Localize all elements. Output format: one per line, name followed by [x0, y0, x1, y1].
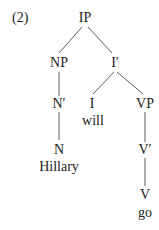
tree-branches — [0, 0, 159, 230]
word-hillary: Hillary — [39, 160, 79, 174]
node-vp: VP — [136, 97, 154, 111]
node-np: NP — [50, 56, 68, 70]
node-n: N — [54, 143, 64, 157]
word-will: will — [82, 114, 104, 128]
edge-ip-np — [59, 27, 82, 53]
node-i: I — [90, 97, 95, 111]
edge-ibar-vp — [117, 72, 143, 94]
node-vbar: V′ — [138, 143, 151, 157]
node-nbar: N′ — [52, 97, 65, 111]
node-ip: IP — [79, 11, 91, 25]
edge-ibar-i — [93, 72, 114, 94]
node-v: V — [140, 188, 150, 202]
edge-ip-ibar — [88, 27, 112, 53]
node-ibar: I′ — [111, 56, 119, 70]
word-go: go — [138, 206, 152, 220]
